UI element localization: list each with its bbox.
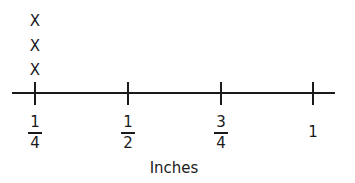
x-mark: X — [25, 62, 45, 78]
numerator: 1 — [123, 114, 133, 131]
x-mark: X — [25, 13, 45, 29]
x-axis-label: Inches — [124, 159, 224, 177]
numerator: 3 — [216, 114, 226, 131]
tick-label-one-half: 1 2 — [116, 114, 140, 152]
denominator: 4 — [30, 135, 40, 152]
tick-label-one: 1 — [301, 124, 325, 141]
tick-label-one-quarter: 1 4 — [23, 114, 47, 152]
tick-one — [312, 82, 314, 105]
denominator: 4 — [216, 135, 226, 152]
tick-label-three-quarters: 3 4 — [209, 114, 233, 152]
numerator: 1 — [30, 114, 40, 131]
x-mark: X — [25, 38, 45, 54]
line-plot: XXX 1 4 1 2 3 4 1 Inches — [0, 0, 355, 183]
tick-three-quarters — [220, 82, 222, 105]
tick-one-half — [127, 82, 129, 105]
number-line-axis — [12, 92, 335, 94]
tick-one-quarter — [34, 82, 36, 105]
denominator: 2 — [123, 135, 133, 152]
